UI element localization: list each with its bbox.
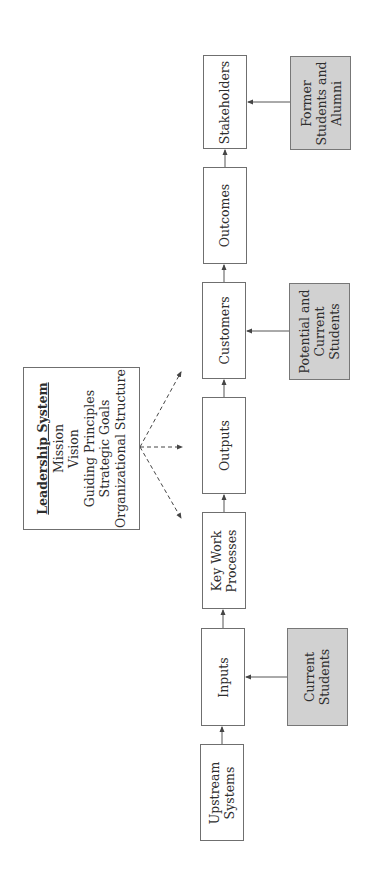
box-label: Customers [217, 296, 232, 364]
box-label: Alumni [328, 61, 343, 145]
stakeholders-box: Stakeholders [203, 55, 247, 149]
leadership-item: Mission [51, 369, 67, 528]
inputs-box: Inputs [201, 628, 245, 726]
leadership-system-box: Leadership System Mission Vision Guiding… [23, 367, 140, 530]
box-label: Systems [222, 761, 237, 824]
box-label: Current [303, 649, 318, 706]
box-label: Processes [224, 529, 239, 592]
box-label: Stakeholders [218, 60, 233, 143]
current-students-box: Current Students [287, 628, 348, 726]
leadership-item: Strategic Goals [97, 369, 113, 528]
box-label: Former [298, 61, 313, 145]
leadership-item: Vision [66, 369, 82, 528]
box-label: Upstream [207, 761, 222, 824]
customers-box: Customers [202, 282, 246, 379]
box-label: Students [318, 649, 333, 706]
box-label: Current [312, 290, 327, 374]
outcomes-box: Outcomes [203, 167, 247, 264]
box-label: Key Work [209, 529, 224, 592]
former-students-alumni-box: Former Students and Alumni [290, 56, 351, 150]
upstream-systems-box: Upstream Systems [200, 744, 244, 841]
outputs-box: Outputs [202, 397, 246, 494]
box-label: Potential and [297, 290, 312, 374]
leadership-item: Guiding Principles [82, 369, 98, 528]
box-label: Outcomes [218, 184, 233, 248]
box-label: Inputs [215, 657, 230, 697]
box-label: Outputs [217, 420, 232, 471]
leadership-title: Leadership System [35, 369, 51, 528]
dashed-arrow-to-keywork [140, 447, 181, 518]
potential-current-students-box: Potential and Current Students [289, 283, 350, 380]
key-work-processes-box: Key Work Processes [202, 512, 246, 609]
box-label: Students [327, 290, 342, 374]
box-label: Students and [313, 61, 328, 145]
leadership-item: Organizational Structure [113, 369, 129, 528]
dashed-arrow-to-customers [140, 372, 181, 447]
